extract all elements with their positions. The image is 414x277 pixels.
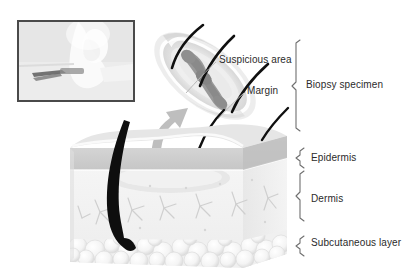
illustration-canvas [0, 0, 414, 277]
bracket-dermis [296, 171, 304, 221]
epidermis-graphic [70, 124, 287, 170]
label-suspicious-area: Suspicious area [219, 55, 292, 65]
skin-block [66, 108, 290, 270]
bracket-subcutaneous [296, 236, 304, 256]
bracket-epidermis [296, 148, 304, 168]
label-dermis: Dermis [311, 194, 343, 204]
block-left-face [70, 148, 74, 262]
bracket-biopsy-specimen [292, 40, 300, 131]
skin-biopsy-figure: Suspicious area Margin Biopsy specimen E… [0, 0, 414, 277]
label-subcutaneous-layer: Subcutaneous layer [311, 238, 401, 248]
label-epidermis: Epidermis [311, 153, 356, 163]
brackets-group [292, 40, 304, 256]
label-margin: Margin [247, 86, 278, 96]
clinical-photo-inset [17, 18, 135, 102]
inset-photo-content [19, 18, 133, 100]
label-biopsy-specimen: Biopsy specimen [306, 80, 383, 90]
